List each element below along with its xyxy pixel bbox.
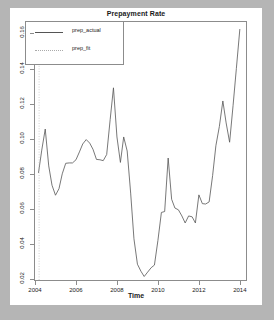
plot-device-panel: Prepayment Rate Time prep_actual prep_fi…	[10, 8, 262, 305]
y-axis-tick	[30, 279, 34, 280]
y-axis-tick	[30, 33, 34, 34]
legend-label: prep_fit	[72, 45, 90, 51]
y-axis-tick	[30, 69, 34, 70]
y-axis-tick	[30, 244, 34, 245]
x-axis-tick	[240, 281, 241, 285]
y-axis-tick	[30, 139, 34, 140]
y-axis-tick	[30, 209, 34, 210]
legend: prep_actual prep_fit	[25, 21, 124, 65]
y-axis-tick-label: 0.04	[19, 233, 25, 253]
y-axis-tick	[30, 174, 34, 175]
x-axis-tick	[76, 281, 77, 285]
x-axis-tick-label: 2006	[64, 287, 88, 293]
legend-item-prep-actual: prep_actual	[26, 26, 125, 40]
x-axis-label: Time	[10, 292, 262, 299]
x-axis-tick-label: 2004	[23, 287, 47, 293]
y-axis-tick-label: 0.16	[19, 22, 25, 42]
y-axis-tick-label: 0.10	[19, 128, 25, 148]
x-axis-tick	[117, 281, 118, 285]
x-axis-tick-label: 2014	[228, 287, 252, 293]
legend-label: prep_actual	[72, 27, 101, 33]
y-axis-tick-label: 0.12	[19, 93, 25, 113]
x-axis-tick	[158, 281, 159, 285]
legend-item-prep-fit: prep_fit	[26, 44, 125, 58]
x-axis-tick-label: 2012	[187, 287, 211, 293]
x-axis-tick	[35, 281, 36, 285]
y-axis-tick-label: 0.06	[19, 198, 25, 218]
series-line-prep-actual	[38, 29, 239, 276]
y-axis-tick-label: 0.08	[19, 163, 25, 183]
legend-line-sample-solid	[35, 32, 63, 33]
x-axis-tick	[199, 281, 200, 285]
page-title: Prepayment Rate	[10, 10, 262, 17]
legend-line-sample-dotted	[35, 50, 63, 51]
screenshot-root: Prepayment Rate Time prep_actual prep_fi…	[0, 0, 274, 320]
x-axis-tick-label: 2010	[146, 287, 170, 293]
y-axis-tick-label: 0.02	[19, 268, 25, 288]
x-axis-tick-label: 2008	[105, 287, 129, 293]
y-axis-tick-label: 0.14	[19, 58, 25, 78]
y-axis-tick	[30, 104, 34, 105]
